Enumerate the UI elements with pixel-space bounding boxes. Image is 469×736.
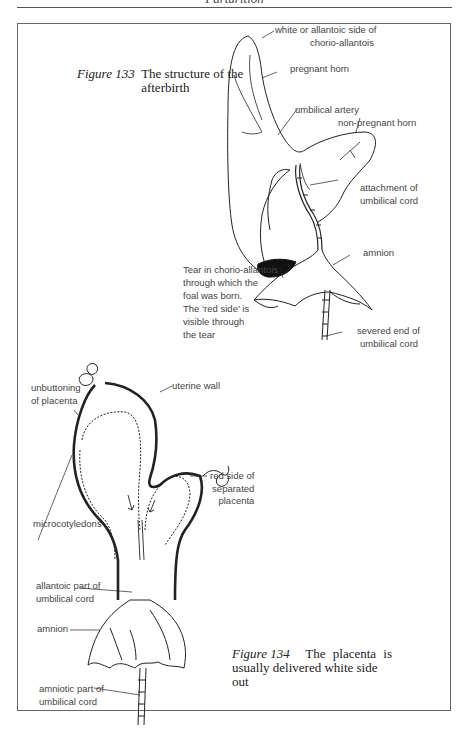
placenta-drawing — [38, 364, 229, 725]
label-unbuttoning: unbuttoning of placenta — [31, 382, 81, 407]
label-tear-line5: visible through — [183, 315, 278, 328]
label-allantoic-part: allantoic part of umbilical cord — [36, 580, 100, 605]
label-unbuttoning-line2: of placenta — [31, 395, 81, 408]
label-tear-line1: Tear in chorio-allantois — [183, 263, 278, 276]
label-white-side-line2: chorio-allantois — [275, 37, 376, 50]
label-microcotyledons: microcotyledons — [33, 518, 102, 531]
label-red-side-line2: separated — [210, 483, 254, 496]
figure-134-caption: Figure 134 The placenta is usually deliv… — [232, 647, 392, 689]
label-attachment-line2: umbilical cord — [360, 195, 418, 208]
label-allantoic-part-line1: allantoic part of — [36, 580, 100, 593]
label-unbuttoning-line1: unbuttoning — [31, 382, 81, 395]
label-tear: Tear in chorio-allantois through which t… — [183, 263, 278, 341]
label-white-side-line1: white or allantoic side of — [275, 24, 376, 37]
label-umbilical-artery: umbilical artery — [295, 104, 359, 117]
label-severed-end-line1: severed end of — [357, 325, 420, 338]
label-red-side-line3: placenta — [210, 495, 254, 508]
label-severed-end-line2: umbilical cord — [357, 338, 420, 351]
label-pregnant-horn: pregnant horn — [290, 63, 349, 76]
label-attachment: attachment of umbilical cord — [360, 182, 418, 207]
label-amniotic-part: amniotic part of umbilical cord — [39, 683, 104, 708]
label-tear-line2: through which the — [183, 276, 278, 289]
label-uterine-wall: uterine wall — [172, 380, 220, 393]
figure-133-text: The structure of the afterbirth — [141, 67, 271, 95]
label-amniotic-part-line2: umbilical cord — [39, 696, 104, 709]
label-tear-line4: The ‘red side’ is — [183, 302, 278, 315]
label-allantoic-part-line2: umbilical cord — [36, 593, 100, 606]
label-amnion-134: amnion — [37, 623, 68, 636]
figure-133-caption: Figure 133 The structure of the afterbir… — [77, 67, 271, 95]
figure-134-caption-line1: Figure 134 The placenta is — [232, 647, 392, 661]
label-tear-line6: the tear — [183, 328, 278, 341]
label-red-side-line1: red side of — [210, 470, 254, 483]
label-attachment-line1: attachment of — [360, 182, 418, 195]
figure-134-caption-first: The placenta is — [305, 647, 392, 661]
label-amnion-133: amnion — [363, 247, 394, 260]
figure-134-caption-line2: usually delivered white side out — [232, 661, 392, 689]
label-white-side: white or allantoic side of chorio-allant… — [275, 24, 376, 49]
label-red-side: red side of separated placenta — [210, 470, 254, 508]
label-tear-line3: foal was born. — [183, 289, 278, 302]
label-amniotic-part-line1: amniotic part of — [39, 683, 104, 696]
figure-133-number: Figure 133 — [77, 66, 135, 81]
figure-134-number: Figure 134 — [232, 647, 290, 661]
label-non-pregnant-horn: non-pregnant horn — [338, 117, 416, 130]
label-severed-end: severed end of umbilical cord — [357, 325, 420, 350]
illustrations — [0, 0, 469, 736]
